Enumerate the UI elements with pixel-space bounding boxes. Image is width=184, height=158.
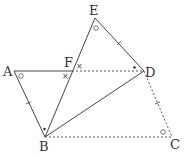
- label-f: F: [64, 55, 73, 70]
- angle-mark-b-dot: [43, 128, 45, 130]
- segment-bd: [45, 71, 144, 137]
- angle-marks: [19, 26, 166, 135]
- tick-dc: [155, 102, 160, 104]
- solid-segments: [14, 18, 144, 137]
- angle-mark-c-circle: [161, 130, 166, 135]
- segment-dc: [144, 71, 172, 137]
- angle-mark-f-cross-2: ×: [76, 62, 83, 71]
- tick-marks: [26, 41, 160, 104]
- label-d: D: [145, 65, 155, 80]
- segment-ab: [14, 71, 45, 137]
- geometry-diagram: × × E A F D B C: [0, 0, 184, 158]
- label-c: C: [170, 137, 180, 152]
- segment-ed: [95, 18, 144, 71]
- label-e: E: [89, 3, 99, 18]
- angle-mark-a-circle: [19, 74, 24, 79]
- angle-mark-f-cross-1: ×: [62, 72, 69, 81]
- angle-mark-e-circle: [94, 26, 99, 31]
- segment-be: [45, 18, 95, 137]
- angle-mark-d-dot: [133, 66, 135, 68]
- label-b: B: [39, 139, 49, 154]
- label-a: A: [2, 64, 13, 79]
